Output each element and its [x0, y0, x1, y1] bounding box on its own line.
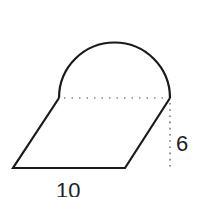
- semicircle-arc: [59, 43, 170, 99]
- parallelogram-sides: [13, 98, 170, 168]
- composite-shape-diagram: [0, 0, 200, 197]
- height-label: 6: [176, 133, 188, 155]
- base-label: 10: [56, 180, 80, 197]
